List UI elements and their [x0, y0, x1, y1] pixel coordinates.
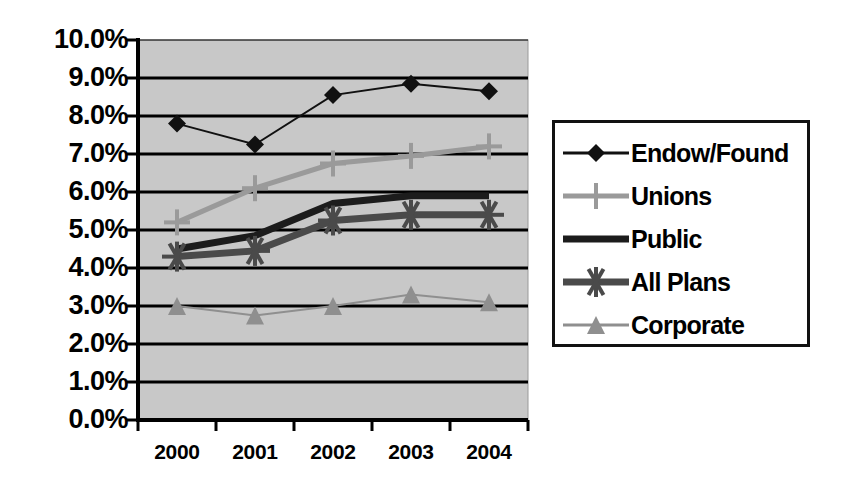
legend-item-all-plans[interactable]: All Plans: [555, 260, 807, 304]
data-point-asterisk: [581, 267, 611, 297]
x-axis-tick-label: 2001: [232, 440, 278, 464]
x-axis-tick-label: 2000: [154, 440, 200, 464]
legend-key-swatch: [561, 133, 631, 173]
legend-item-label: Unions: [631, 184, 712, 209]
legend-item-label: Corporate: [631, 313, 744, 338]
legend-item-public[interactable]: Public: [555, 217, 807, 261]
legend-item-corporate[interactable]: Corporate: [555, 303, 807, 347]
legend-key-swatch: [561, 262, 631, 302]
legend-item-unions[interactable]: Unions: [555, 174, 807, 218]
legend-key-swatch: [561, 305, 631, 345]
legend-key-swatch: [561, 176, 631, 216]
legend-key-swatch: [561, 219, 631, 259]
chart-legend: Endow/FoundUnionsPublicAll PlansCorporat…: [552, 120, 810, 347]
data-point-diamond: [587, 144, 605, 162]
x-axis-tick-label: 2002: [310, 440, 356, 464]
line-chart: 0.0%1.0%2.0%3.0%4.0%5.0%6.0%7.0%8.0%9.0%…: [0, 0, 858, 489]
legend-item-endow-found[interactable]: Endow/Found: [555, 131, 807, 175]
legend-marker: [587, 144, 605, 162]
legend-item-label: All Plans: [631, 270, 730, 295]
legend-marker: [583, 183, 609, 209]
x-axis-tick-label: 2003: [388, 440, 434, 464]
data-point-plus: [583, 183, 609, 209]
legend-item-label: Public: [631, 227, 702, 252]
legend-item-label: Endow/Found: [631, 141, 789, 166]
x-axis-tick-label: 2004: [466, 440, 512, 464]
legend-marker: [581, 267, 611, 297]
